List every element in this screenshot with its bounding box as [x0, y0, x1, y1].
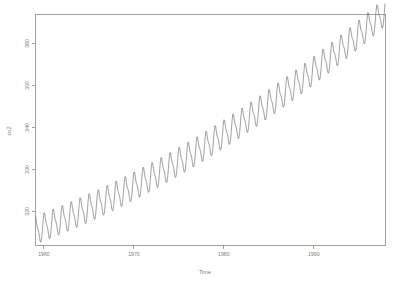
y-tick-label: 350 — [24, 81, 30, 90]
y-tick-label: 340 — [24, 123, 30, 132]
x-tick-label: 1970 — [128, 251, 140, 257]
y-tick-label: 330 — [24, 165, 30, 174]
x-tick-label: 1990 — [308, 251, 320, 257]
x-axis-title: Time — [199, 269, 211, 275]
y-tick-label: 320 — [24, 207, 30, 216]
x-tick-label: 1980 — [218, 251, 230, 257]
y-axis-title: co2 — [6, 126, 12, 135]
x-tick-label: 1960 — [38, 251, 50, 257]
chart-canvas: 1960197019801990 320330340350360 Time co… — [0, 0, 409, 283]
co2-time-series-figure: 1960197019801990 320330340350360 Time co… — [0, 0, 409, 283]
y-tick-label: 360 — [24, 39, 30, 48]
